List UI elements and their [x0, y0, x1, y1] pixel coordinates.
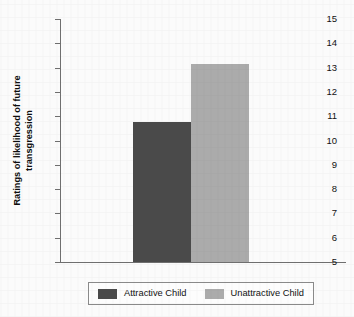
y-axis-tick	[55, 141, 60, 142]
y-axis-tick	[55, 68, 60, 69]
legend-item-attractive-child: Attractive Child	[89, 289, 187, 299]
bar-attractive-child	[133, 122, 191, 262]
y-axis-tick-label: 6	[332, 233, 337, 243]
y-axis-tick-label: 5	[332, 257, 337, 267]
y-axis-tick-label: 12	[326, 87, 337, 97]
plot-area: 56789101112131415	[60, 19, 345, 262]
y-axis-tick-label: 11	[327, 111, 337, 121]
y-axis-tick-label: 13	[326, 63, 337, 73]
y-axis-tick-label: 10	[326, 136, 337, 146]
x-axis-line	[60, 262, 346, 263]
chart-legend: Attractive Child Unattractive Child	[88, 282, 314, 305]
y-axis-tick	[55, 43, 60, 44]
y-axis-title: Ratings of likelihood of future transgre…	[8, 19, 38, 262]
legend-label-attractive-child: Attractive Child	[124, 289, 187, 298]
y-axis-tick-label: 9	[332, 160, 337, 170]
legend-label-unattractive-child: Unattractive Child	[231, 289, 304, 298]
bar-chart-figure: Ratings of likelihood of future transgre…	[0, 0, 354, 317]
y-axis-tick-label: 7	[332, 209, 337, 219]
y-axis-tick-label: 8	[332, 184, 337, 194]
y-axis-tick	[55, 19, 60, 20]
bar-unattractive-child	[191, 64, 249, 262]
y-axis-tick	[55, 189, 60, 190]
y-axis-tick	[55, 92, 60, 93]
legend-item-unattractive-child: Unattractive Child	[187, 289, 304, 299]
y-axis-title-line-1: Ratings of likelihood of future	[12, 75, 22, 205]
y-axis-tick	[55, 165, 60, 166]
y-axis-tick	[55, 262, 60, 263]
y-axis-tick-label: 14	[326, 39, 337, 49]
y-axis-tick	[55, 213, 60, 214]
y-axis-title-line-2: transgression	[24, 110, 34, 171]
y-axis-tick-label: 15	[326, 14, 337, 24]
legend-swatch-attractive-child	[98, 289, 117, 299]
y-axis-tick	[55, 238, 60, 239]
y-axis-title-text: Ratings of likelihood of future transgre…	[11, 75, 36, 205]
legend-swatch-unattractive-child	[205, 289, 224, 299]
y-axis-tick	[55, 116, 60, 117]
